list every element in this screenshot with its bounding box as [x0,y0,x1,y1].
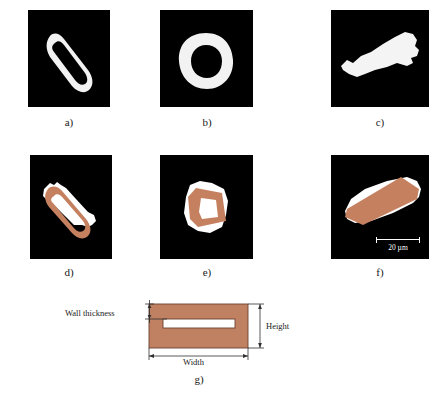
panel-d-image [30,155,112,259]
label-width: Width [183,357,204,367]
panel-c-caption: c) [359,116,401,128]
height-dimension [248,304,264,348]
schematic-lumen [163,319,235,328]
scale-bar-cap-right [419,237,420,243]
panel-d-caption: d) [48,266,90,278]
panel-g-caption: g) [178,373,220,385]
scale-bar-label: 20 µm [375,244,421,252]
panel-e-image [160,155,253,259]
label-height: Height [266,321,289,331]
panel-g-schematic: Wall thickness Height Width [70,296,320,368]
scale-bar-line [376,237,420,243]
panel-f-caption: f) [359,266,401,278]
panel-c-image [331,10,429,107]
panel-a-caption: a) [48,116,90,128]
label-wall-thickness: Wall thickness [65,308,115,318]
scale-bar-rule [376,239,420,240]
panel-f-image: 20 µm [331,155,429,259]
panel-e-caption: e) [186,266,228,278]
panel-a-image [28,10,110,107]
microscopy-figure: a) b) c) d) e) [0,0,441,397]
panel-b-caption: b) [186,116,228,128]
panel-b-image [160,10,253,107]
scale-bar: 20 µm [375,237,421,252]
